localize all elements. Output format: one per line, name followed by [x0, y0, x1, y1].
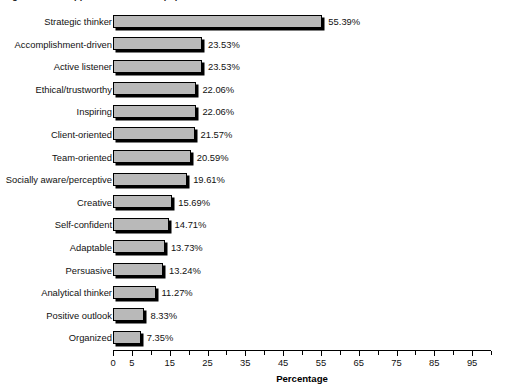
category-label: Organized — [69, 327, 112, 350]
x-axis-tick — [283, 351, 284, 356]
bar-container — [113, 308, 144, 323]
bar-container — [113, 60, 202, 75]
bar-row: Inspiring22.06% — [0, 101, 515, 124]
bar-container — [113, 331, 141, 346]
bar-row: Positive outlook8.33% — [0, 305, 515, 328]
bar[interactable] — [113, 105, 196, 118]
x-axis-tick — [321, 351, 322, 356]
bar-container — [113, 263, 163, 278]
x-axis-tick-label: 45 — [271, 357, 295, 368]
category-label: Creative — [77, 192, 112, 215]
bar-value-label: 13.24% — [169, 263, 201, 278]
category-label: Socially aware/perceptive — [6, 169, 112, 192]
bar[interactable] — [113, 263, 163, 276]
x-axis-tick-label: 75 — [385, 357, 409, 368]
category-label: Adaptable — [70, 237, 112, 260]
bar-row: Socially aware/perceptive19.61% — [0, 169, 515, 192]
x-axis-tick — [359, 351, 360, 356]
bar[interactable] — [113, 240, 165, 253]
bar-value-label: 55.39% — [328, 14, 360, 29]
bar-row: Organized7.35% — [0, 327, 515, 350]
bar-value-label: 13.73% — [171, 240, 203, 255]
category-label: Persuasive — [66, 260, 112, 283]
bar[interactable] — [113, 60, 202, 73]
bar[interactable] — [113, 127, 195, 140]
x-axis-tick — [491, 351, 492, 355]
bar-value-label: 21.57% — [201, 127, 233, 142]
x-axis-tick-label: 35 — [233, 357, 257, 368]
x-axis-tick — [226, 351, 227, 355]
bar-row: Self-confident14.71% — [0, 214, 515, 237]
bar-chart: Strategic thinker55.39%Accomplishment-dr… — [0, 5, 515, 391]
bar[interactable] — [113, 331, 141, 344]
bar-value-label: 7.35% — [147, 330, 174, 345]
bar-container — [113, 195, 172, 210]
bar-container — [113, 150, 191, 165]
x-axis-tick — [397, 351, 398, 356]
bar-row: Team-oriented20.59% — [0, 147, 515, 170]
category-label: Active listener — [54, 56, 112, 79]
category-label: Positive outlook — [46, 305, 112, 328]
bar[interactable] — [113, 286, 156, 299]
bar[interactable] — [113, 195, 172, 208]
bar-container — [113, 240, 165, 255]
x-axis: 05152535455565758595 Percentage — [0, 350, 515, 391]
x-axis-tick — [340, 351, 341, 355]
category-label: Team-oriented — [52, 147, 112, 170]
bar[interactable] — [113, 218, 169, 231]
bar-row: Active listener23.53% — [0, 56, 515, 79]
bar-row: Strategic thinker55.39% — [0, 11, 515, 34]
bar-value-label: 23.53% — [208, 37, 240, 52]
x-axis-tick-label: 5 — [120, 357, 144, 368]
x-axis-tick-label: 95 — [460, 357, 484, 368]
x-axis-tick-label: 85 — [422, 357, 446, 368]
x-axis-tick — [453, 351, 454, 355]
x-axis-tick — [208, 351, 209, 356]
x-axis-tick-label: 25 — [196, 357, 220, 368]
bar-value-label: 8.33% — [150, 308, 177, 323]
x-axis-tick — [151, 351, 152, 355]
figure-caption-text: Figure 2. Most appreciated leadership qu… — [4, 0, 209, 1]
category-label: Client-oriented — [51, 124, 112, 147]
bar[interactable] — [113, 15, 322, 28]
bar-container — [113, 37, 202, 52]
x-axis-tick-label: 15 — [158, 357, 182, 368]
bar-row: Adaptable13.73% — [0, 237, 515, 260]
bar-value-label: 20.59% — [197, 150, 229, 165]
category-label: Self-confident — [55, 214, 112, 237]
x-axis-tick — [434, 351, 435, 356]
x-axis-tick — [264, 351, 265, 355]
bar-row: Creative15.69% — [0, 192, 515, 215]
bar-row: Client-oriented21.57% — [0, 124, 515, 147]
bar[interactable] — [113, 150, 191, 163]
x-axis-tick-label: 55 — [309, 357, 333, 368]
bar-value-label: 19.61% — [193, 172, 225, 187]
x-axis-tick — [189, 351, 190, 355]
bar-row: Persuasive13.24% — [0, 260, 515, 283]
x-axis-tick — [132, 351, 133, 356]
bar-container — [113, 127, 195, 142]
bar-row: Ethical/trustworthy22.06% — [0, 79, 515, 102]
bar[interactable] — [113, 308, 144, 321]
bar-value-label: 15.69% — [178, 195, 210, 210]
x-axis-tick — [472, 351, 473, 356]
x-axis-tick-label: 65 — [347, 357, 371, 368]
bar-value-label: 22.06% — [202, 82, 234, 97]
category-label: Ethical/trustworthy — [35, 79, 112, 102]
x-axis-tick — [170, 351, 171, 356]
x-axis-tick — [113, 351, 114, 356]
x-axis-tick — [302, 351, 303, 355]
bar[interactable] — [113, 37, 202, 50]
plot-area: Strategic thinker55.39%Accomplishment-dr… — [0, 11, 515, 350]
bar[interactable] — [113, 173, 187, 186]
x-axis-tick — [245, 351, 246, 356]
bar-container — [113, 15, 322, 30]
bar[interactable] — [113, 82, 196, 95]
bar-row: Analytical thinker11.27% — [0, 282, 515, 305]
bar-value-label: 22.06% — [202, 104, 234, 119]
x-axis-tick — [378, 351, 379, 355]
bar-container — [113, 105, 196, 120]
bar-value-label: 23.53% — [208, 59, 240, 74]
x-axis-title: Percentage — [113, 373, 491, 384]
category-label: Analytical thinker — [41, 282, 112, 305]
